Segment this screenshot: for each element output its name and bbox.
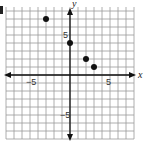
y-tick-label: −5 [60, 110, 70, 120]
coordinate-plane: xy−555−5 [0, 0, 144, 144]
y-axis-up-arrow-icon [67, 8, 73, 15]
data-point [91, 64, 97, 70]
data-point [83, 56, 89, 62]
x-axis-left-arrow-icon [4, 72, 11, 78]
x-tick-label: −5 [26, 77, 36, 87]
y-tick-label: 5 [63, 30, 68, 40]
x-axis-right-arrow-icon [129, 72, 136, 78]
y-axis-label: y [71, 0, 77, 9]
x-tick-label: 5 [106, 77, 111, 87]
data-point [43, 16, 49, 22]
data-point [67, 40, 73, 46]
x-axis-label: x [137, 69, 143, 80]
y-axis-down-arrow-icon [67, 134, 73, 141]
